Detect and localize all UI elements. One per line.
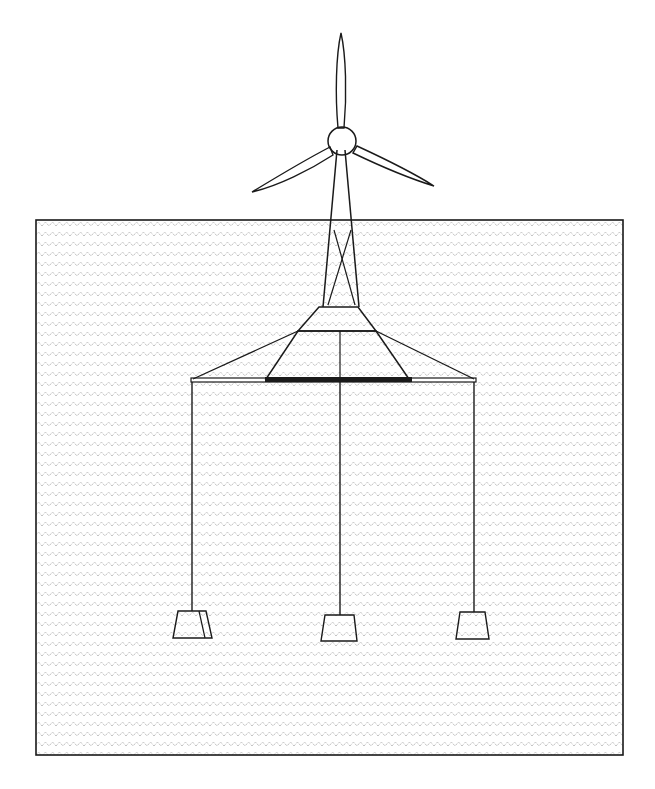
blade-left (252, 147, 333, 192)
blade-right (353, 146, 434, 186)
floating-wind-turbine-diagram (0, 0, 655, 789)
rotor-hub (328, 127, 356, 155)
rotor (252, 33, 434, 192)
blade-top (336, 33, 345, 128)
